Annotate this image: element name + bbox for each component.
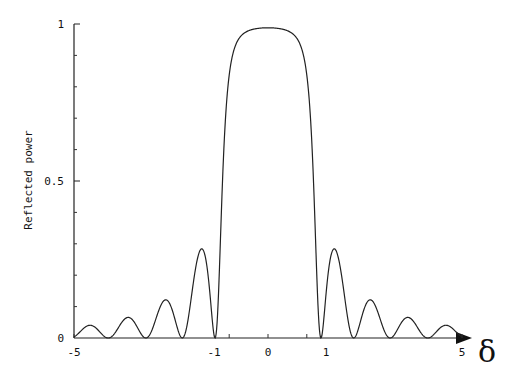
x-axis-title-delta: δ <box>478 334 496 369</box>
y-tick-labels: 1 0.5 0 <box>44 18 64 345</box>
x-tick-label-1: 1 <box>323 346 330 359</box>
y-axis-title: Reflected power <box>22 130 35 230</box>
y-tick-label-1: 1 <box>57 18 64 31</box>
reflected-power-chart: 1 0.5 0 -5 -1 0 1 5 Reflected power δ <box>0 0 506 375</box>
x-tick-label-5: 5 <box>459 346 466 359</box>
reflected-power-curve <box>74 28 462 338</box>
x-axis <box>74 332 472 344</box>
x-tick-label-0: 0 <box>265 346 272 359</box>
y-tick-label-0: 0 <box>57 332 64 345</box>
y-axis <box>74 24 80 338</box>
x-tick-label-neg1: -1 <box>207 346 220 359</box>
x-tick-labels: -5 -1 0 1 5 <box>67 346 465 359</box>
y-tick-label-0.5: 0.5 <box>44 175 64 188</box>
x-tick-label-neg5: -5 <box>67 346 80 359</box>
